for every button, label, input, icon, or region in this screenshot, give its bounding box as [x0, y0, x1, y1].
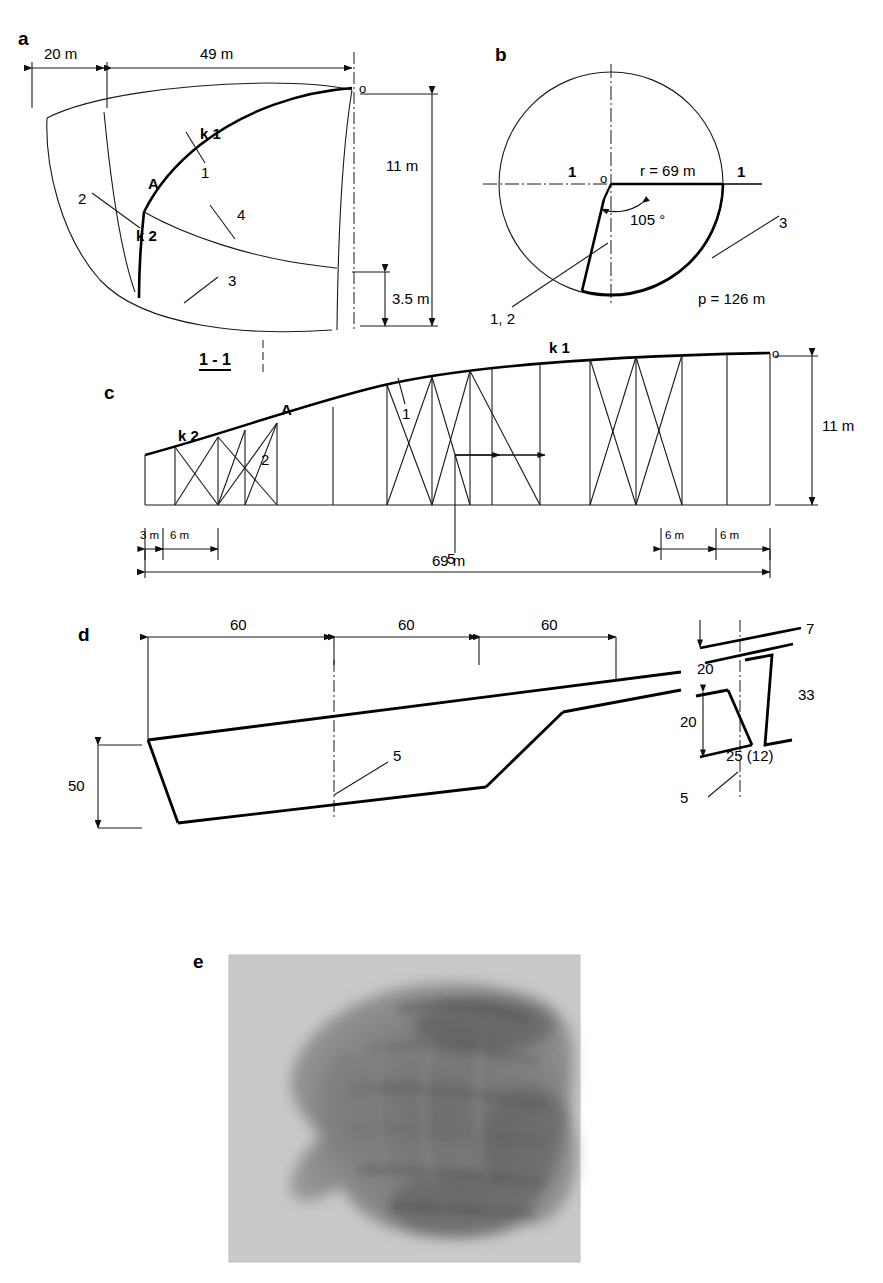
chord-k2-label-a: k 2 [136, 228, 157, 243]
dim-60-3-label: 60 [541, 617, 558, 632]
point-o-label-c: o [772, 347, 779, 360]
panel-letter-d: d [78, 625, 90, 644]
dim-20-top-label: 20 [697, 661, 714, 676]
panel-b-drawing [483, 64, 779, 307]
dim-60-1-label: 60 [230, 617, 247, 632]
callout-1-c: 1 [402, 406, 410, 421]
callout-12-b: 1, 2 [490, 311, 515, 326]
point-A-label-a: A [148, 176, 159, 191]
dim-69m-label: 69 m [432, 553, 465, 568]
point-A-label-c: A [281, 402, 292, 417]
specimen-photograph-canvas [229, 955, 580, 1262]
callout-1-a: 1 [201, 165, 209, 180]
dim-11m-label-a: 11 m [386, 158, 418, 173]
dim-20m-label: 20 m [44, 46, 77, 61]
panel-c-drawing [145, 340, 818, 578]
radius-label-b: r = 69 m [640, 163, 695, 178]
dim-20-bottom-label: 20 [680, 714, 697, 729]
angle-label-b: 105 ° [630, 212, 665, 227]
dim-49m-label: 49 m [200, 46, 233, 61]
callout-2-a: 2 [78, 191, 86, 206]
callout-3-a: 3 [228, 273, 236, 288]
specimen-photograph [229, 955, 580, 1262]
section-title-1-1: 1 - 1 [199, 352, 231, 371]
callout-2-c: 2 [261, 452, 269, 467]
callout-4-a: 4 [237, 207, 245, 222]
dim-35m-label: 3.5 m [392, 291, 430, 306]
dim-11m-label-c: 11 m [822, 418, 854, 433]
point-o-label-a: o [359, 82, 366, 95]
dim-50-label: 50 [68, 778, 85, 793]
dim-6m-right2-label: 6 m [720, 530, 739, 542]
callout-7-d: 7 [806, 621, 814, 636]
panel-a-drawing [32, 52, 438, 332]
figure-root: a b c d e 20 m 49 m o 11 m 3.5 m k 1 k 2… [0, 0, 883, 1283]
dim-60-2-label: 60 [398, 617, 415, 632]
callout-5-d-main: 5 [393, 748, 401, 763]
dim-6m-left-label: 6 m [170, 530, 189, 542]
section-mark-left-b: 1 [568, 164, 576, 179]
panel-letter-c: c [104, 383, 115, 402]
panel-letter-e: e [193, 952, 204, 971]
callout-5-d-detail: 5 [680, 790, 688, 805]
dim-33-label: 33 [798, 687, 815, 702]
point-o-label-b: o [600, 172, 607, 185]
dim-25-12-label: 25 (12) [726, 748, 774, 763]
panel-letter-b: b [495, 45, 507, 64]
callout-3-b: 3 [779, 215, 787, 230]
dim-3m-label: 3 m [140, 530, 159, 542]
dim-6m-right1-label: 6 m [665, 530, 684, 542]
chord-k2-label-c: k 2 [178, 428, 199, 443]
panel-letter-a: a [18, 29, 29, 48]
section-mark-right-b: 1 [737, 164, 745, 179]
perimeter-label-b: p = 126 m [698, 291, 765, 306]
chord-k1-label-a: k 1 [200, 126, 221, 141]
chord-k1-label-c: k 1 [549, 340, 570, 355]
